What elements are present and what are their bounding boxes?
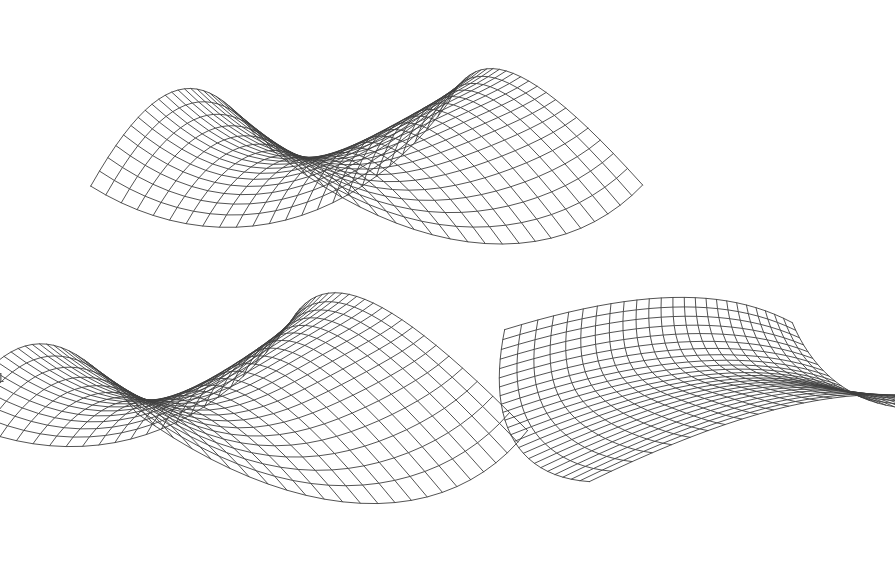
wireframe-surface-canvas: [0, 0, 895, 572]
figure-canvas-root: , 1: [0, 0, 895, 572]
clipped-left-label-bottom: 1: [0, 371, 4, 384]
